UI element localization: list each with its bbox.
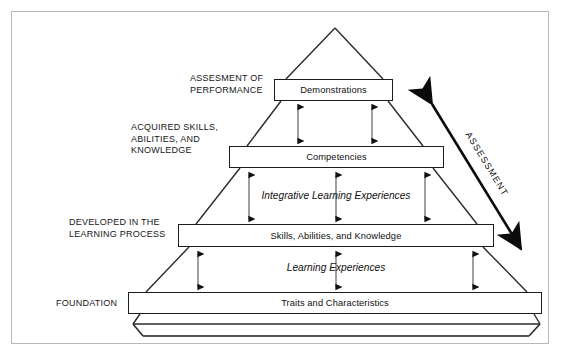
tier-box-demonstrations[interactable]: Demonstrations: [274, 79, 393, 101]
tier-box-skills-abilities-knowledge[interactable]: Skills, Abilities, and Knowledge: [178, 224, 494, 247]
tier-box-label: Competencies: [306, 152, 367, 162]
tier-box-competencies[interactable]: Competencies: [229, 146, 444, 168]
side-label-acquired-skills: ACQUIRED SKILLS, ABILITIES, AND KNOWLEDG…: [131, 122, 231, 157]
side-label-foundation: FOUNDATION: [56, 298, 136, 310]
tier-box-traits-characteristics[interactable]: Traits and Characteristics: [128, 292, 542, 314]
process-label-learning-experiences: Learning Experiences: [266, 262, 406, 273]
process-label-integrative-learning-experiences: Integrative Learning Experiences: [236, 190, 436, 201]
diagram-canvas: Demonstrations Competencies Skills, Abil…: [0, 0, 563, 357]
tier-box-label: Traits and Characteristics: [281, 298, 389, 308]
side-label-developed-in-learning-process: DEVELOPED IN THE LEARNING PROCESS: [69, 217, 181, 240]
tier-box-label: Skills, Abilities, and Knowledge: [271, 231, 402, 241]
side-label-assessment-of-performance: ASSESMENT OF PERFORMANCE: [190, 73, 280, 96]
tier-box-label: Demonstrations: [300, 85, 367, 95]
arrows-demonstrations-competencies: [298, 107, 372, 141]
